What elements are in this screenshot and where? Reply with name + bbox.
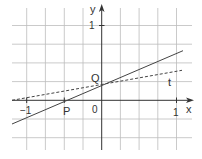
line-t-label: t — [168, 76, 171, 88]
y-tick-label-1: 1 — [89, 20, 95, 31]
point-P-label: P — [63, 105, 70, 117]
x-tick-label-neg1: −1 — [20, 105, 32, 116]
coordinate-figure: y x 0 −1 1 1 P Q t — [0, 0, 202, 159]
point-Q-label: Q — [91, 72, 100, 84]
x-tick-label-1: 1 — [173, 107, 179, 118]
y-axis-label: y — [90, 3, 96, 15]
axes — [12, 8, 190, 150]
x-axis-label: x — [186, 103, 192, 115]
origin-label: 0 — [92, 104, 98, 115]
